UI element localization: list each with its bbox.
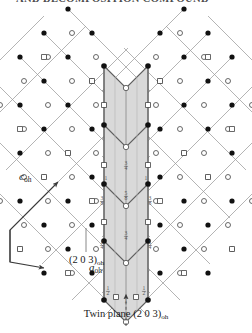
svg-text:14: 14 xyxy=(101,239,104,251)
a-axis-arrow xyxy=(10,230,44,268)
plane-index-subscript: oh xyxy=(97,259,104,267)
plane-index-label: (2 0 3)oh xyxy=(69,255,104,267)
svg-text:12: 12 xyxy=(143,285,146,297)
c-axis-label: coh xyxy=(19,171,31,184)
svg-text:34: 34 xyxy=(125,160,128,172)
svg-text:14: 14 xyxy=(149,239,152,251)
twin-plane-caption-subscript: oh xyxy=(161,313,168,321)
svg-text:1: 1 xyxy=(105,175,108,181)
svg-text:38: 38 xyxy=(149,195,152,207)
a-axis-subscript: oh xyxy=(95,266,102,275)
svg-text:38: 38 xyxy=(101,195,104,207)
twin-plane-figure: 1 1 34 38 38 58 14 14 34 12 12 1 xyxy=(0,0,252,333)
twin-plane-caption-text: Twin plane (2 0 3) xyxy=(84,308,161,319)
svg-text:12: 12 xyxy=(107,285,110,297)
plane-index-text: (2 0 3) xyxy=(69,254,97,265)
twin-plane-caption: Twin plane (2 0 3)oh xyxy=(0,309,252,321)
c-axis-subscript: oh xyxy=(24,175,31,184)
svg-text:1: 1 xyxy=(145,175,148,181)
svg-text:34: 34 xyxy=(125,230,128,242)
svg-text:58: 58 xyxy=(125,190,128,202)
